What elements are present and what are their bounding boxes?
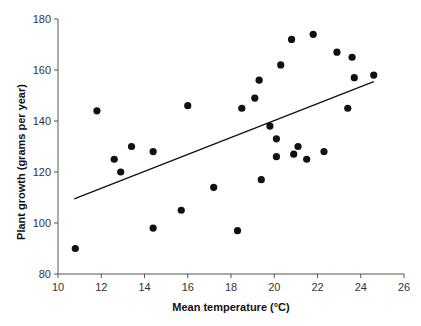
x-tick-label: 14 bbox=[138, 281, 150, 293]
data-point bbox=[370, 72, 377, 79]
x-tick-label: 16 bbox=[182, 281, 194, 293]
data-point bbox=[238, 105, 245, 112]
data-point bbox=[72, 245, 79, 252]
y-axis-label: Plant growth (grams per year) bbox=[15, 84, 27, 240]
y-tick-label: 100 bbox=[33, 217, 51, 229]
y-tick-label: 160 bbox=[33, 64, 51, 76]
data-point bbox=[210, 184, 217, 191]
data-point bbox=[320, 148, 327, 155]
data-point bbox=[184, 102, 191, 109]
data-point bbox=[266, 123, 273, 130]
data-point bbox=[117, 168, 124, 175]
data-point bbox=[178, 207, 185, 214]
x-tick-label: 22 bbox=[311, 281, 323, 293]
data-point bbox=[310, 31, 317, 38]
y-tick-label: 120 bbox=[33, 166, 51, 178]
data-point bbox=[93, 107, 100, 114]
data-point bbox=[251, 94, 258, 101]
x-tick-label: 12 bbox=[95, 281, 107, 293]
data-point bbox=[234, 227, 241, 234]
data-point bbox=[303, 156, 310, 163]
x-tick-label: 18 bbox=[225, 281, 237, 293]
data-point bbox=[277, 61, 284, 68]
scatter-chart: 80100120140160180 101214161820222426 Mea… bbox=[0, 0, 421, 326]
data-point bbox=[344, 105, 351, 112]
data-point bbox=[150, 148, 157, 155]
x-ticks: 101214161820222426 bbox=[52, 274, 410, 293]
data-point bbox=[349, 54, 356, 61]
regression-line bbox=[74, 82, 374, 199]
fit-line bbox=[74, 82, 374, 199]
data-point bbox=[290, 151, 297, 158]
x-axis-label: Mean temperature (°C) bbox=[172, 301, 290, 313]
data-points bbox=[72, 31, 378, 252]
data-point bbox=[294, 143, 301, 150]
data-point bbox=[111, 156, 118, 163]
data-point bbox=[273, 153, 280, 160]
data-point bbox=[258, 176, 265, 183]
x-tick-label: 10 bbox=[52, 281, 64, 293]
y-ticks: 80100120140160180 bbox=[33, 13, 58, 280]
y-tick-label: 80 bbox=[39, 268, 51, 280]
x-tick-label: 26 bbox=[398, 281, 410, 293]
x-tick-label: 24 bbox=[355, 281, 367, 293]
y-tick-label: 140 bbox=[33, 115, 51, 127]
data-point bbox=[273, 135, 280, 142]
x-tick-label: 20 bbox=[268, 281, 280, 293]
data-point bbox=[128, 143, 135, 150]
y-tick-label: 180 bbox=[33, 13, 51, 25]
data-point bbox=[150, 225, 157, 232]
data-point bbox=[256, 77, 263, 84]
data-point bbox=[351, 74, 358, 81]
data-point bbox=[288, 36, 295, 43]
data-point bbox=[333, 49, 340, 56]
